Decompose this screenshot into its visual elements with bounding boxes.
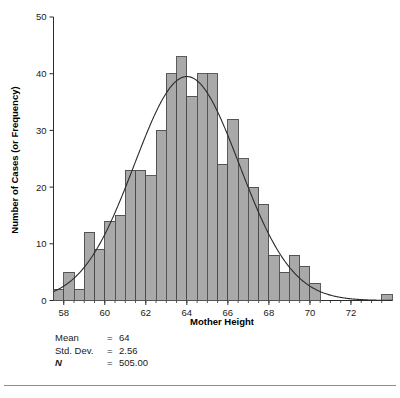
histogram-bar <box>238 159 248 301</box>
histogram-bar <box>166 74 176 301</box>
y-axis-title: Number of Cases (or Frequency) <box>9 86 20 233</box>
y-tick-label-0: 0 <box>41 295 46 306</box>
histogram-bar <box>177 57 187 301</box>
histogram-bar <box>187 96 197 300</box>
histogram-bar <box>146 176 156 301</box>
histogram-bar <box>197 74 207 301</box>
mean-equals: = <box>107 332 119 345</box>
stats-row-n: N = 505.00 <box>55 357 148 370</box>
y-tick-label-40: 40 <box>36 68 47 79</box>
y-tick-label-20: 20 <box>36 182 47 193</box>
x-tick-label-68: 68 <box>264 307 275 318</box>
y-tick-labels: 01020304050 <box>36 11 47 306</box>
x-tick-label-58: 58 <box>58 307 69 318</box>
histogram-bar <box>136 170 146 300</box>
histogram-bar <box>84 232 94 300</box>
histogram-bar <box>74 289 84 300</box>
x-tick-label-62: 62 <box>141 307 152 318</box>
histogram-bar <box>248 187 258 300</box>
stats-row-mean: Mean = 64 <box>55 332 148 345</box>
x-tick-label-70: 70 <box>305 307 316 318</box>
n-value: 505.00 <box>119 357 148 370</box>
y-tick-marks <box>50 17 54 301</box>
std-dev-label: Std. Dev. <box>55 345 107 358</box>
y-tick-label-10: 10 <box>36 238 47 249</box>
stats-row-std-dev: Std. Dev. = 2.56 <box>55 345 148 358</box>
x-tick-label-72: 72 <box>346 307 357 318</box>
x-tick-label-60: 60 <box>99 307 110 318</box>
histogram-bars <box>54 57 393 301</box>
std-dev-equals: = <box>107 345 119 358</box>
x-axis: 5860626466687072 <box>54 301 393 318</box>
mean-label: Mean <box>55 332 107 345</box>
histogram-figure: 01020304050 5860626466687072 Mother Heig… <box>0 0 400 398</box>
histogram-bar <box>259 204 269 300</box>
histogram-bar <box>269 255 279 300</box>
histogram-bar <box>64 272 74 300</box>
histogram-bar <box>382 295 392 301</box>
footer-divider <box>4 385 396 386</box>
n-label: N <box>55 357 107 370</box>
x-axis-title: Mother Height <box>190 316 255 327</box>
histogram-bar <box>279 272 289 300</box>
y-tick-label-50: 50 <box>36 11 47 22</box>
std-dev-value: 2.56 <box>119 345 138 358</box>
statistics-block: Mean = 64 Std. Dev. = 2.56 N = 505.00 <box>55 332 148 370</box>
n-equals: = <box>107 357 119 370</box>
histogram-bar <box>125 170 135 300</box>
histogram-bar <box>218 164 228 300</box>
histogram-bar <box>95 249 105 300</box>
histogram-bar <box>105 221 115 300</box>
histogram-bar <box>300 266 310 300</box>
histogram-bar <box>115 215 125 300</box>
histogram-bar <box>228 119 238 300</box>
y-tick-label-30: 30 <box>36 125 47 136</box>
histogram-bar <box>289 255 299 300</box>
histogram-bar <box>156 130 166 300</box>
y-axis: 01020304050 <box>36 11 54 306</box>
mean-value: 64 <box>119 332 130 345</box>
histogram-bar <box>310 283 320 300</box>
